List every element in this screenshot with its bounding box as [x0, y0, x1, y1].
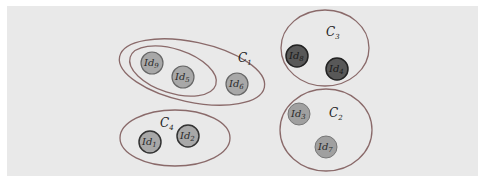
node-id4: Id4 — [326, 58, 348, 80]
node-id1: Id1 — [139, 131, 161, 153]
node-id3: Id3 — [288, 103, 310, 125]
cluster-c2-label: C2 — [329, 106, 343, 122]
cluster-c3-label: C3 — [326, 25, 340, 41]
node-id8: Id8 — [286, 45, 308, 67]
cluster-c4-label: C4 — [160, 116, 174, 132]
cluster-c4-boundary — [120, 110, 230, 166]
cluster-diagram: C1 C3 C2 C4 Id9 Id5 Id6 Id1 Id2 Id8 Id4 … — [0, 0, 483, 176]
node-id5: Id5 — [172, 66, 194, 88]
node-id2: Id2 — [177, 125, 199, 147]
node-id9: Id9 — [141, 52, 163, 74]
cluster-c1-label: C1 — [238, 51, 252, 67]
node-id6: Id6 — [226, 73, 248, 95]
node-id7: Id7 — [315, 136, 337, 158]
cluster-c2-boundary — [280, 89, 372, 171]
nested-group-boundary — [123, 36, 222, 106]
